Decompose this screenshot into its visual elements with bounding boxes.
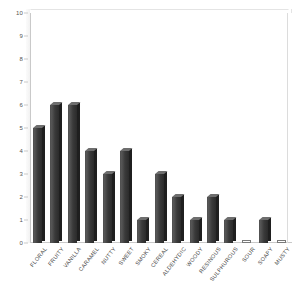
bar-slot — [275, 13, 292, 243]
bar-slot — [222, 13, 239, 243]
x-axis-label-text: NUTTY — [100, 245, 118, 265]
x-axis-label-text: MUSTY — [274, 245, 292, 266]
y-axis-tick-label: 4 — [19, 148, 23, 154]
bar-side-face — [129, 149, 132, 241]
bar — [50, 105, 59, 243]
bar-slot — [188, 13, 205, 243]
y-axis-tick-mark — [24, 243, 28, 244]
y-axis-tick-mark — [24, 36, 28, 37]
bar-side-face — [216, 195, 219, 241]
bar-slot — [31, 13, 48, 243]
y-axis-tick-label: 5 — [19, 125, 23, 131]
y-axis-tick-label: 1 — [19, 217, 23, 223]
bar-slot — [170, 13, 187, 243]
y-axis-tick-label: 8 — [19, 56, 23, 62]
bar-slot — [101, 13, 118, 243]
bar-slot — [240, 13, 257, 243]
bar-slot — [66, 13, 83, 243]
bar-slot — [153, 13, 170, 243]
bar-slot — [48, 13, 65, 243]
bars-layer — [31, 13, 292, 243]
y-axis-tick-mark — [24, 59, 28, 60]
bar-side-face — [42, 126, 45, 241]
x-axis-label-text: FLORAL — [28, 245, 48, 268]
y-axis-tick-label: 9 — [19, 33, 23, 39]
y-axis-tick-label: 6 — [19, 102, 23, 108]
bar-slot — [135, 13, 152, 243]
y-axis-tick-label: 3 — [19, 171, 23, 177]
y-axis-tick-mark — [24, 151, 28, 152]
bar-slot — [118, 13, 135, 243]
bar-side-face — [181, 195, 184, 241]
bar-side-face — [268, 218, 271, 241]
bar-slot — [83, 13, 100, 243]
y-axis: 109876543210 — [0, 0, 30, 256]
y-axis-tick-label: 7 — [19, 79, 23, 85]
bar-chart: 109876543210 FLORALFRUITYVANILLACARAMELN… — [0, 0, 302, 300]
y-axis-tick-label: 10 — [16, 10, 23, 16]
bar-side-face — [77, 103, 80, 241]
y-axis-tick-mark — [24, 105, 28, 106]
y-axis-tick-mark — [24, 197, 28, 198]
bar — [33, 128, 42, 243]
y-axis-tick-mark — [24, 128, 28, 129]
bar-slot — [257, 13, 274, 243]
x-axis-label-text: SOUR — [241, 245, 257, 263]
bar-side-face — [59, 103, 62, 241]
y-axis-tick-mark — [24, 220, 28, 221]
y-axis-tick-mark — [24, 174, 28, 175]
chart-wall-top — [30, 9, 289, 10]
bar — [68, 105, 77, 243]
y-axis-tick-mark — [24, 82, 28, 83]
x-axis-label-text: SOAPY — [256, 245, 274, 266]
bar-slot — [205, 13, 222, 243]
y-axis-tick-label: 2 — [19, 194, 23, 200]
x-axis-labels: FLORALFRUITYVANILLACARAMELNUTTYSWEETSMOK… — [31, 245, 292, 300]
y-axis-tick-mark — [24, 13, 28, 14]
x-axis-label-text: SWEET — [117, 245, 136, 266]
y-axis-tick-label: 0 — [19, 240, 23, 246]
